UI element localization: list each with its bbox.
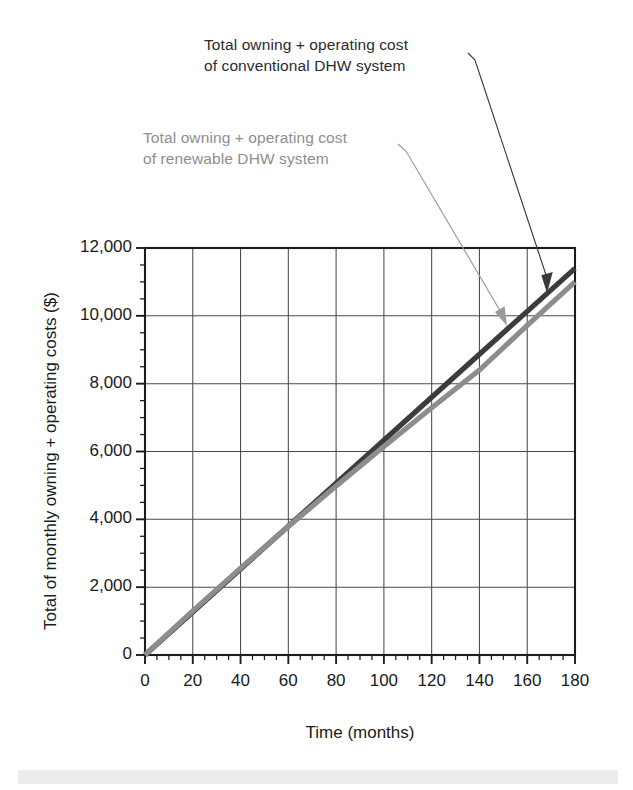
leader-conventional xyxy=(468,53,553,293)
y-axis-title: Total of monthly owning + operating cost… xyxy=(41,251,61,671)
leader-renewable xyxy=(398,144,507,326)
x-tick-label: 180 xyxy=(545,671,605,691)
series-line-renewable xyxy=(145,282,575,655)
scan-artifact-band xyxy=(18,770,618,784)
chart-figure: Total owning + operating cost of convent… xyxy=(0,0,633,790)
x-axis-title: Time (months) xyxy=(145,723,575,743)
